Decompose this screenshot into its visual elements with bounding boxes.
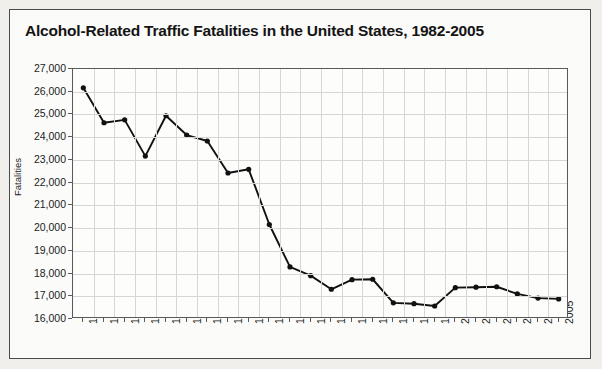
gridline-vertical [197,69,198,317]
data-point-marker [329,287,334,292]
gridline-vertical [466,69,467,317]
gridline-vertical [94,69,95,317]
data-point-marker [143,154,148,159]
gridline-vertical [404,69,405,317]
y-axis-tick-label: 19,000 [10,244,66,256]
gridline-vertical [114,69,115,317]
data-point-marker [225,170,230,175]
data-point-marker [432,303,437,308]
data-point-marker [391,300,396,305]
gridline-vertical [383,69,384,317]
gridline-vertical [238,69,239,317]
data-point-marker [81,85,86,90]
gridline-vertical [218,69,219,317]
y-axis-tick-mark [68,318,72,319]
y-axis-tick-label: 17,000 [10,289,66,301]
gridline-horizontal [73,228,567,229]
data-point-marker [494,284,499,289]
gridline-vertical [135,69,136,317]
chart-figure: Alcohol-Related Traffic Fatalities in th… [0,0,602,369]
gridline-vertical [548,69,549,317]
data-point-marker [473,285,478,290]
gridline-vertical [445,69,446,317]
gridline-horizontal [73,274,567,275]
gridline-vertical [259,69,260,317]
gridline-horizontal [73,183,567,184]
gridline-vertical [342,69,343,317]
data-point-marker [370,277,375,282]
data-point-marker [122,117,127,122]
gridline-horizontal [73,160,567,161]
data-point-marker [267,222,272,227]
y-axis-tick-label: 18,000 [10,267,66,279]
data-point-marker [411,301,416,306]
y-axis-tick-label: 20,000 [10,221,66,233]
y-axis-tick-label: 22,000 [10,176,66,188]
gridline-vertical [424,69,425,317]
gridline-vertical [486,69,487,317]
y-axis-tick-label: 25,000 [10,107,66,119]
y-axis-tick-label: 23,000 [10,153,66,165]
gridline-vertical [176,69,177,317]
gridline-vertical [507,69,508,317]
y-axis-tick-label: 27,000 [10,62,66,74]
data-point-marker [287,264,292,269]
data-point-marker [349,277,354,282]
gridline-vertical [280,69,281,317]
plot-area [72,68,568,318]
gridline-horizontal [73,251,567,252]
y-axis-tick-label: 24,000 [10,130,66,142]
y-axis-tick-label: 16,000 [10,312,66,324]
y-axis-tick-label: 21,000 [10,198,66,210]
gridline-horizontal [73,296,567,297]
gridline-vertical [300,69,301,317]
gridline-vertical [528,69,529,317]
gridline-horizontal [73,137,567,138]
data-point-marker [101,120,106,125]
gridline-vertical [321,69,322,317]
data-point-marker [453,285,458,290]
gridline-horizontal [73,114,567,115]
data-point-marker [205,138,210,143]
gridline-horizontal [73,205,567,206]
data-point-marker [246,167,251,172]
gridline-vertical [362,69,363,317]
gridline-horizontal [73,92,567,93]
gridline-vertical [156,69,157,317]
y-axis-tick-label: 26,000 [10,85,66,97]
